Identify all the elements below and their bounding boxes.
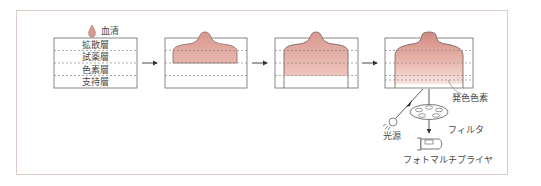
layer-label-support: 支持層	[82, 76, 109, 87]
stage-3	[275, 32, 358, 88]
light-source-label: 光源	[383, 130, 401, 141]
serum-drop-icon	[89, 25, 96, 37]
layer-label-dye: 色素層	[82, 64, 109, 75]
chromophore-label: 発色色素	[452, 92, 488, 103]
stage-2	[165, 32, 247, 88]
dry-chemistry-diagram: 血清 拡散層 試薬層 色素層 支持層 発色色素 光源 フィルタ フォトマルチプラ…	[0, 0, 541, 186]
filter-wheel-icon	[410, 105, 448, 120]
photomultiplier-icon	[417, 138, 442, 150]
filter-label: フィルタ	[448, 125, 484, 135]
layer-label-reagent: 試薬層	[82, 51, 109, 62]
photomultiplier-label: フォトマルチプライヤ	[403, 155, 493, 165]
layer-label-diffusion: 拡散層	[82, 39, 109, 50]
serum-label: 血清	[101, 25, 119, 36]
light-source-icon	[383, 118, 397, 130]
stage-4	[385, 32, 473, 88]
serum-spread-2	[173, 32, 237, 63]
